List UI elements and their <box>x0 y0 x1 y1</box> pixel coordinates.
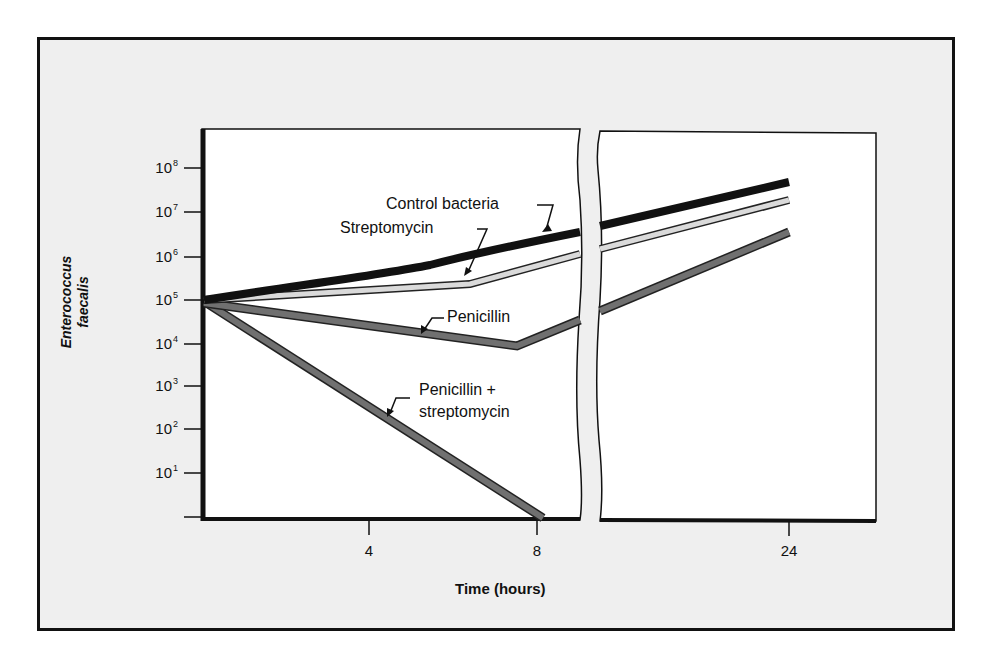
ytick-label-1e6: 106 <box>118 247 178 265</box>
ytick-label-1e2: 102 <box>118 419 178 437</box>
y-ticks <box>184 168 201 517</box>
ytick-label-1e5: 105 <box>118 290 178 308</box>
label-streptomycin: Streptomycin <box>340 217 433 239</box>
xtick-label-4: 4 <box>349 542 389 559</box>
x-axis-title: Time (hours) <box>455 580 546 597</box>
y-axis-title-line1: Enterococcus <box>58 232 75 372</box>
x-ticks <box>369 521 789 536</box>
x-axis-right <box>600 520 876 521</box>
label-combo-line2: streptomycin <box>419 401 510 423</box>
ytick-label-1e3: 103 <box>118 376 178 394</box>
label-control-bacteria: Control bacteria <box>386 193 499 215</box>
ytick-label-1e8: 108 <box>118 158 178 176</box>
xtick-label-8: 8 <box>517 542 557 559</box>
ytick-label-1e4: 104 <box>118 334 178 352</box>
y-axis-title-line2: faecalis <box>75 232 92 372</box>
xtick-label-24: 24 <box>769 542 809 559</box>
label-penicillin-streptomycin: Penicillin + streptomycin <box>419 379 510 423</box>
ytick-label-1e7: 107 <box>118 202 178 220</box>
label-combo-line1: Penicillin + <box>419 379 510 401</box>
y-axis-title: Enterococcus faecalis <box>58 232 92 372</box>
ytick-label-1e1: 101 <box>118 463 178 481</box>
label-penicillin: Penicillin <box>447 306 510 328</box>
plot-panel-right <box>597 131 876 521</box>
